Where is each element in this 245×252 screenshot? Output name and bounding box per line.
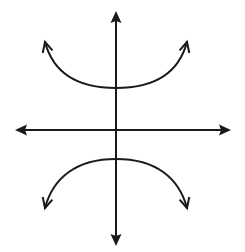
hyperbola-diagram [0,0,245,252]
coordinate-axes [15,11,231,246]
diagram-svg [0,0,245,252]
